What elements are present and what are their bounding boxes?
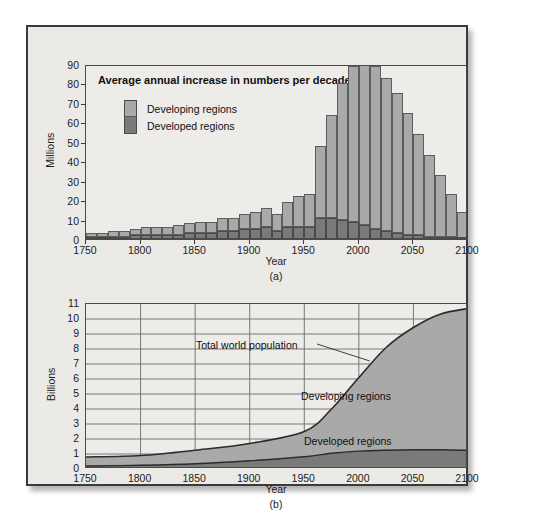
bar-column [141,227,152,239]
bar-segment-developed [403,235,414,239]
chart-b-y-axis-title: Billions [46,354,57,414]
legend-swatch-developing [125,101,136,117]
bar-segment-developing [162,227,173,235]
bar-segment-developing [457,212,467,239]
axis-tick-label: 8 [53,343,79,354]
bar-segment-developed [184,233,195,239]
bar-column [446,194,457,239]
bar-segment-developed [162,235,173,239]
axis-tick-label: 1900 [229,245,269,256]
axis-tick-label: 90 [51,60,79,71]
bar-column [86,233,97,239]
bar-segment-developing [326,115,337,218]
bar-segment-developing [228,218,239,232]
axis-tick-mark [81,143,86,144]
bar-column [162,227,173,239]
bar-column [337,83,348,239]
legend-swatch-developed [125,117,136,133]
chart-b-x-axis-title: Year [85,484,467,495]
bar-column [359,65,370,239]
bar-segment-developing [173,225,184,235]
axis-tick-label: 2100 [447,473,487,484]
bar-segment-developed [217,231,228,239]
axis-tick-mark [303,240,304,244]
total-population-annotation: Total world population [196,339,298,351]
bar-segment-developed [272,231,283,239]
bar-column [293,196,304,239]
axis-tick-label: 20 [51,196,79,207]
axis-tick-mark [412,240,413,244]
axis-tick-mark [81,104,86,105]
bar-segment-developed [151,235,162,239]
axis-tick-label: 70 [51,99,79,110]
bar-segment-developed [130,235,141,239]
bar-segment-developed [119,237,130,239]
chart-a-caption: (a) [85,270,467,282]
bar-column [315,146,326,239]
axis-tick-mark [85,240,86,244]
bar-column [97,233,108,239]
bar-column [413,134,424,239]
bar-column [217,218,228,239]
axis-tick-label: 1950 [283,245,323,256]
bar-segment-developing [239,214,250,230]
axis-tick-label: 2100 [447,245,487,256]
bar-column [173,225,184,239]
axis-tick-label: 10 [53,313,79,324]
axis-tick-label: 2050 [392,473,432,484]
bar-column [119,231,130,239]
axis-tick-mark [81,162,86,163]
figure-root: Average annual increase in numbers per d… [0,0,534,515]
bar-segment-developing [381,78,392,232]
bar-column [239,214,250,239]
bar-segment-developed [370,229,381,239]
bar-segment-developed [261,227,272,239]
bar-segment-developed [282,227,293,239]
bar-segment-developed [304,227,315,239]
bar-segment-developed [86,237,97,239]
bar-segment-developing [217,218,228,232]
axis-tick-label: 7 [53,358,79,369]
bar-segment-developed [141,235,152,239]
bar-segment-developing [293,196,304,227]
bar-column [392,93,403,239]
bar-segment-developing [348,66,359,222]
bar-column [130,229,141,239]
bar-segment-developed [293,227,304,239]
bar-segment-developing [315,146,326,218]
bar-segment-developing [370,66,381,229]
axis-tick-label: 1800 [120,245,160,256]
axis-tick-label: 1850 [174,473,214,484]
area-developing [86,309,467,469]
bar-segment-developed [446,237,457,239]
axis-tick-label: 1 [53,448,79,459]
bar-segment-developing [250,212,261,230]
axis-tick-mark [358,240,359,244]
axis-tick-mark [194,240,195,244]
bar-segment-developed [337,220,348,239]
axis-tick-label: 1950 [283,473,323,484]
bar-segment-developed [250,229,261,239]
bar-column [424,155,435,239]
bar-segment-developing [151,227,162,235]
bar-segment-developed [195,233,206,239]
bar-column [457,212,467,239]
bar-column [250,212,261,239]
bar-column [228,218,239,239]
chart-a-title: Average annual increase in numbers per d… [98,74,351,86]
bar-column [108,231,119,239]
bar-column [184,223,195,239]
bar-column [435,175,446,239]
area-label-developed: Developed regions [304,435,392,447]
bar-segment-developed [228,231,239,239]
axis-tick-label: 2050 [392,245,432,256]
axis-tick-label: 2000 [338,473,378,484]
bar-column [403,113,414,239]
bar-segment-developing [435,175,446,237]
axis-tick-label: 1750 [65,245,105,256]
legend-label-developed: Developed regions [147,120,235,132]
bar-column [348,66,359,239]
chart-a-plot-area: Average annual increase in numbers per d… [85,65,467,240]
bar-column [326,115,337,239]
axis-tick-label: 1750 [65,473,105,484]
